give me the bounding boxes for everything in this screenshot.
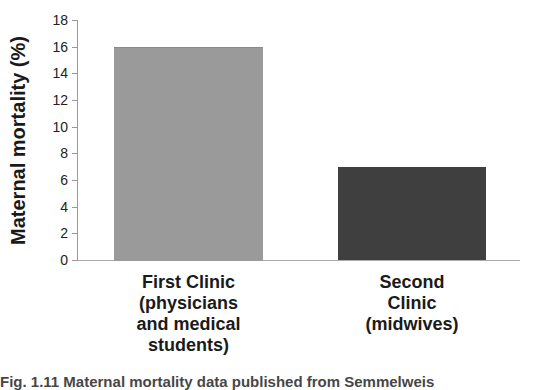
y-tick-mark [72, 260, 78, 261]
y-tick-mark [72, 73, 78, 74]
y-tick-label: 16 [38, 40, 68, 54]
y-tick-label: 8 [38, 146, 68, 160]
x-label-second-clinic: Second Clinic (midwives) [308, 272, 516, 335]
y-tick-mark [72, 153, 78, 154]
y-axis-title: Maternal mortality (%) [6, 20, 30, 260]
x-label-first-clinic: First Clinic (physicians and medical stu… [84, 272, 293, 356]
y-tick-mark [72, 100, 78, 101]
figure-caption: Fig. 1.11 Maternal mortality data publis… [0, 373, 550, 390]
y-tick-label: 18 [38, 13, 68, 27]
y-tick-mark [72, 20, 78, 21]
y-tick-mark [72, 233, 78, 234]
y-tick-label: 4 [38, 200, 68, 214]
y-tick-label: 12 [38, 93, 68, 107]
bar-first-clinic [114, 47, 263, 261]
y-axis-line [77, 20, 78, 261]
y-tick-mark [72, 180, 78, 181]
y-tick-label: 14 [38, 66, 68, 80]
y-tick-label: 0 [38, 253, 68, 267]
bar-second-clinic [338, 167, 486, 260]
y-tick-mark [72, 127, 78, 128]
y-tick-mark [72, 207, 78, 208]
y-tick-label: 2 [38, 226, 68, 240]
y-tick-label: 10 [38, 120, 68, 134]
y-axis-title-text: Maternal mortality (%) [7, 36, 30, 245]
y-tick-label: 6 [38, 173, 68, 187]
y-tick-mark [72, 47, 78, 48]
